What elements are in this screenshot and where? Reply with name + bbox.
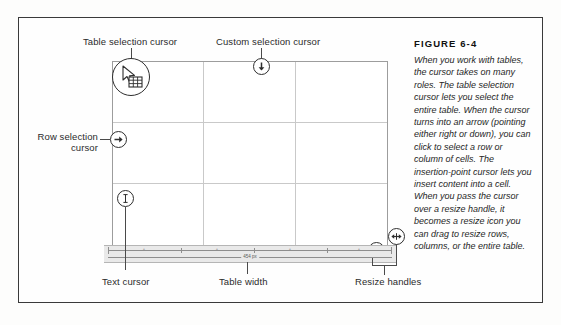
label-table-width: Table width xyxy=(219,276,268,287)
ruler-segment-label: + xyxy=(216,246,218,251)
ruler-baseline xyxy=(108,250,392,251)
table-cell[interactable] xyxy=(204,123,295,184)
label-row-selection-cursor-line2: cursor xyxy=(34,142,98,154)
table-cell[interactable] xyxy=(113,123,204,184)
arrow-grid-cursor-icon xyxy=(113,59,149,95)
arrow-down-cursor-icon xyxy=(254,59,269,74)
leader-row-selection xyxy=(100,139,110,140)
table-width-ruler[interactable]: + + + + 454 px xyxy=(104,245,396,263)
leader-resize-handle-horizontal xyxy=(396,244,397,258)
ruler-tick xyxy=(327,248,328,253)
row-selection-cursor-badge xyxy=(110,131,127,148)
table-cell[interactable] xyxy=(296,123,387,184)
text-cursor-badge xyxy=(117,190,134,207)
table-cell[interactable] xyxy=(296,184,387,245)
table-width-readout: 454 px xyxy=(241,254,259,259)
i-beam-cursor-icon xyxy=(118,191,133,206)
table-cell[interactable] xyxy=(204,184,295,245)
figure-page: Table selection cursor Custom selection … xyxy=(0,0,561,325)
ruler-tick xyxy=(108,247,109,254)
ruler-tick xyxy=(254,248,255,253)
table-selection-cursor-badge xyxy=(112,58,150,96)
ruler-tick xyxy=(391,247,392,254)
resize-horizontal-icon xyxy=(389,229,404,244)
leader-resize-handles-bracket xyxy=(372,258,397,266)
table-cell[interactable] xyxy=(296,62,387,123)
leader-text-cursor xyxy=(125,207,126,270)
arrow-right-cursor-icon xyxy=(111,132,126,147)
label-resize-handles: Resize handles xyxy=(355,276,421,287)
ruler-segment-label: + xyxy=(143,246,145,251)
table-grid[interactable] xyxy=(112,61,388,246)
label-row-selection-cursor-line1: Row selection xyxy=(34,131,98,143)
leader-table-width xyxy=(247,262,248,274)
figure-caption-title: FIGURE 6-4 xyxy=(414,38,532,49)
ruler-tick xyxy=(181,248,182,253)
label-custom-selection-cursor: Custom selection cursor xyxy=(216,36,320,47)
ruler-segment-label: + xyxy=(289,246,291,251)
leader-resize-handles xyxy=(384,266,385,275)
custom-selection-cursor-badge xyxy=(253,58,270,75)
figure-caption-body: When you work with tables, the cursor ta… xyxy=(414,54,532,253)
figure-caption: FIGURE 6-4 When you work with tables, th… xyxy=(414,38,532,253)
ruler-segment-label: + xyxy=(358,246,360,251)
label-table-selection-cursor: Table selection cursor xyxy=(83,36,177,47)
label-text-cursor: Text cursor xyxy=(102,276,150,287)
table-cell[interactable] xyxy=(204,62,295,123)
resize-handle-horizontal-badge[interactable] xyxy=(388,228,405,245)
